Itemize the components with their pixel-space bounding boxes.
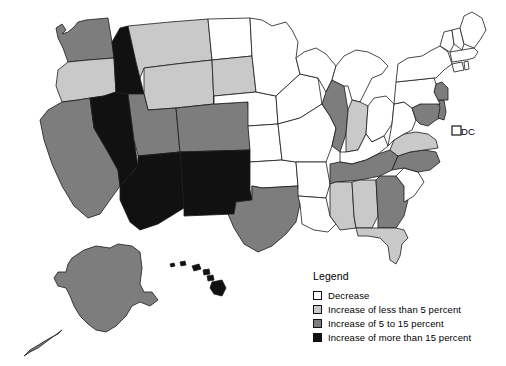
state-HI[interactable]	[170, 261, 226, 296]
dc-marker-label: DC	[461, 126, 475, 137]
state-AK[interactable]	[24, 244, 158, 356]
legend-swatch-increase-5-to-15	[313, 319, 322, 328]
state-MA[interactable]	[450, 48, 478, 62]
choropleth-map-figure: DC Legend Decrease Increase of less than…	[0, 0, 506, 366]
state-ND[interactable]	[208, 18, 252, 60]
legend-title: Legend	[313, 270, 493, 282]
legend-item-increase-5-to-15[interactable]: Increase of 5 to 15 percent	[313, 317, 493, 329]
legend: Legend Decrease Increase of less than 5 …	[313, 270, 493, 345]
state-CO[interactable]	[176, 102, 250, 152]
legend-label-increase-over-15: Increase of more than 15 percent	[328, 332, 471, 343]
dc-marker-box[interactable]	[452, 126, 461, 135]
state-AR[interactable]	[296, 162, 330, 198]
state-KS[interactable]	[248, 124, 282, 162]
legend-item-decrease[interactable]: Decrease	[313, 289, 493, 301]
state-WY[interactable]	[144, 60, 214, 110]
state-ME[interactable]	[460, 12, 486, 48]
legend-label-decrease: Decrease	[328, 290, 369, 301]
state-RI[interactable]	[464, 61, 469, 70]
legend-swatch-decrease	[313, 291, 322, 300]
state-NY[interactable]	[396, 46, 452, 82]
legend-swatch-increase-under-5	[313, 305, 322, 314]
legend-label-increase-under-5: Increase of less than 5 percent	[328, 304, 461, 315]
state-CT[interactable]	[452, 62, 464, 72]
state-WA[interactable]	[56, 18, 114, 62]
state-FL[interactable]	[356, 228, 408, 264]
legend-swatch-increase-over-15	[313, 333, 322, 342]
legend-label-increase-5-to-15: Increase of 5 to 15 percent	[328, 318, 444, 329]
legend-item-increase-over-15[interactable]: Increase of more than 15 percent	[313, 331, 493, 343]
legend-item-increase-under-5[interactable]: Increase of less than 5 percent	[313, 303, 493, 315]
state-AL[interactable]	[352, 180, 378, 228]
